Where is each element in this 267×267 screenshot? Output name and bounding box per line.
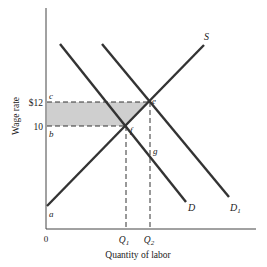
point-e-label: e bbox=[152, 96, 156, 106]
point-b-label: b bbox=[49, 129, 54, 139]
x-tick-q1: Q1 bbox=[119, 235, 129, 247]
labor-market-diagram: S D D1 a b c e f g $12 10 0 Q1 Q2 Quanti… bbox=[0, 0, 267, 267]
y-tick-10: 10 bbox=[34, 122, 44, 132]
x-tick-q2: Q2 bbox=[144, 235, 155, 247]
point-a-label: a bbox=[49, 209, 54, 219]
shaded-area bbox=[47, 102, 149, 126]
point-f-label: f bbox=[130, 125, 134, 135]
supply-label: S bbox=[204, 31, 209, 42]
x-axis-title: Quantity of labor bbox=[105, 250, 171, 260]
point-c-label: c bbox=[49, 91, 53, 101]
y-axis-title: Wage rate bbox=[11, 97, 21, 135]
origin-label: 0 bbox=[44, 234, 49, 244]
point-g-label: g bbox=[153, 146, 158, 156]
demand-label: D bbox=[187, 202, 196, 213]
demand-d1-label: D1 bbox=[229, 202, 241, 215]
y-tick-12: $12 bbox=[29, 98, 44, 108]
